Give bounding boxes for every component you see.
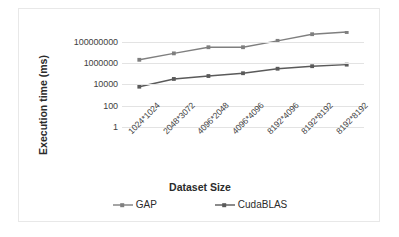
legend-item[interactable]: GAP: [113, 199, 157, 210]
data-point-marker: [310, 32, 314, 36]
data-point-marker: [345, 31, 349, 34]
y-axis-tick-label: 1000000: [84, 58, 118, 68]
chart-container: 1100100001000000100000000 Execution time…: [18, 8, 380, 222]
y-axis-tick-label: 10000: [93, 79, 118, 89]
data-point-marker: [137, 85, 141, 89]
legend-label: GAP: [136, 199, 157, 210]
data-point-marker: [310, 64, 314, 68]
y-axis-tick-label: 1: [113, 122, 118, 132]
gridline: [122, 84, 364, 85]
gridline: [122, 42, 364, 43]
legend-marker-icon: [113, 200, 133, 210]
y-axis-title: Execution time (ms): [37, 50, 49, 160]
x-axis-tick-labels: 1024*10242048*30724096*20484096*40968192…: [122, 129, 364, 181]
legend-marker-icon: [215, 200, 235, 210]
x-axis-title: Dataset Size: [19, 181, 381, 193]
legend-item[interactable]: CudaBLAS: [215, 199, 287, 210]
y-axis-tick-label: 100000000: [74, 37, 118, 47]
y-axis-tick-labels: 1100100001000000100000000: [49, 31, 118, 127]
data-point-marker: [241, 71, 245, 75]
data-point-marker: [276, 67, 280, 71]
y-axis-tick-label: 100: [103, 101, 118, 111]
data-point-marker: [172, 51, 176, 55]
legend-label: CudaBLAS: [238, 199, 287, 210]
data-point-marker: [207, 74, 211, 78]
data-point-marker: [137, 58, 141, 62]
data-point-marker: [241, 45, 245, 49]
data-point-marker: [207, 45, 211, 49]
data-point-marker: [172, 77, 176, 81]
gridline: [122, 63, 364, 64]
chart-legend: GAPCudaBLAS: [19, 199, 381, 210]
